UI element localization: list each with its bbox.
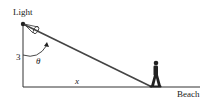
distance-label: x — [74, 76, 79, 86]
light-label: Light — [13, 7, 33, 17]
beach-label: Beach — [177, 89, 200, 99]
height-label: 3 — [16, 52, 21, 62]
person-icon — [150, 61, 162, 88]
angle-arc — [23, 45, 47, 56]
angle-label: θ — [36, 56, 41, 66]
arrow-head-icon — [44, 42, 49, 47]
lighthouse-diagram: Light 3 θ x Beach — [0, 0, 214, 99]
light-beam — [23, 24, 152, 87]
